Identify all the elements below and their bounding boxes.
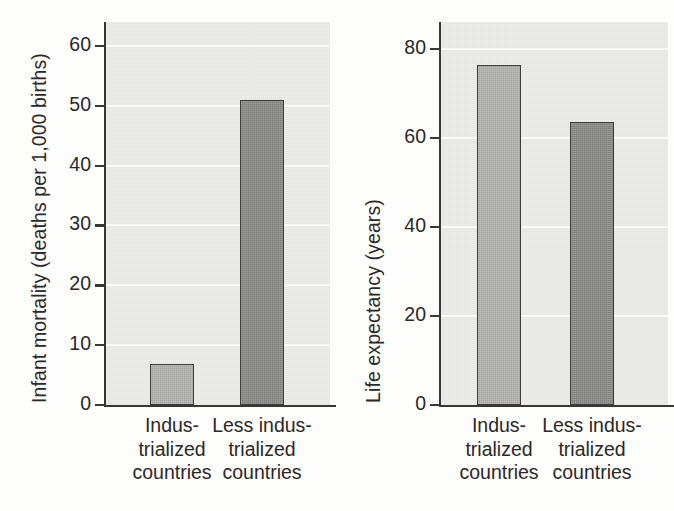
y-axis-tick (430, 404, 439, 406)
y-axis-tick-label: 60 (39, 33, 91, 56)
bar (477, 65, 521, 405)
y-axis-tick (95, 224, 104, 226)
gridline (441, 226, 668, 228)
chart-panel-life-expectancy: Life expectancy (years) 020406080 Indus-… (336, 0, 673, 511)
y-axis-tick (95, 344, 104, 346)
gridline (441, 315, 668, 317)
y-axis-tick-label: 20 (39, 272, 91, 295)
gridline (441, 137, 668, 139)
y-axis-tick-label: 50 (39, 93, 91, 116)
plot-area-life-expectancy (439, 22, 668, 405)
y-axis-tick (95, 105, 104, 107)
x-axis-category-label: Less indus- trialized countries (202, 414, 322, 485)
y-axis-tick-label: 60 (374, 125, 426, 148)
bar (240, 100, 284, 405)
gridline (106, 165, 330, 167)
y-axis-tick (95, 404, 104, 406)
bar-texture (241, 101, 283, 404)
y-axis-tick-label: 10 (39, 332, 91, 355)
gridline (106, 45, 330, 47)
y-axis-tick-label: 0 (39, 392, 91, 415)
bar (150, 364, 194, 405)
y-axis-tick (95, 284, 104, 286)
plot-area-infant-mortality (104, 22, 330, 405)
x-axis-category-label: Less indus- trialized countries (528, 414, 656, 485)
y-axis-tick (430, 48, 439, 50)
gridline (106, 105, 330, 107)
y-axis-tick-label: 40 (39, 153, 91, 176)
y-axis-tick-label: 80 (374, 36, 426, 59)
gridline (441, 48, 668, 50)
y-axis-tick-label: 40 (374, 214, 426, 237)
y-axis-tick (95, 165, 104, 167)
bar-texture (478, 66, 520, 404)
gridline (106, 284, 330, 286)
bar (570, 122, 614, 405)
bar-texture (571, 123, 613, 404)
bar-texture (151, 365, 193, 404)
y-axis-tick-label: 30 (39, 212, 91, 235)
y-axis-tick (430, 315, 439, 317)
gridline (106, 344, 330, 346)
gridline (106, 224, 330, 226)
y-axis-tick (430, 137, 439, 139)
x-axis-line-infant-mortality (104, 405, 336, 407)
x-axis-line-life-expectancy (439, 405, 674, 407)
y-axis-tick-label: 20 (374, 303, 426, 326)
chart-panel-infant-mortality: Infant mortality (deaths per 1,000 birth… (0, 0, 336, 511)
y-axis-tick (95, 45, 104, 47)
y-axis-tick (430, 226, 439, 228)
y-axis-tick-label: 0 (374, 392, 426, 415)
